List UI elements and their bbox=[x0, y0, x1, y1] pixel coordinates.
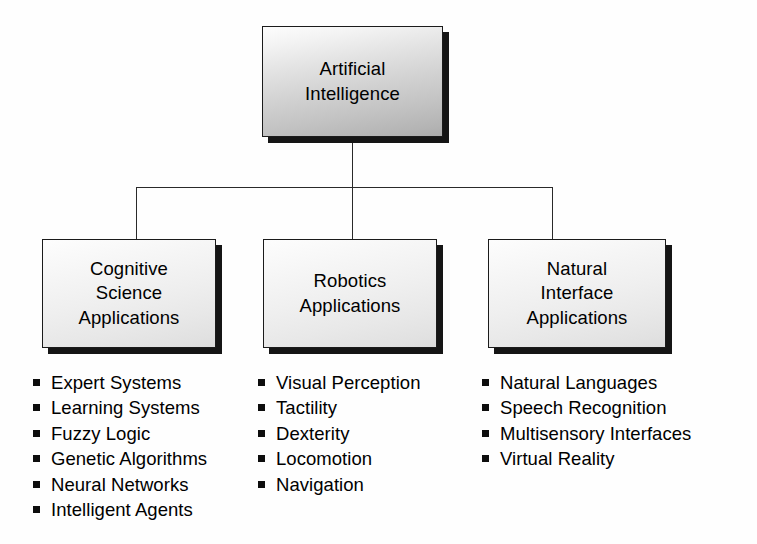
list-item-label: Locomotion bbox=[276, 448, 372, 470]
node-label: Natural Interface Applications bbox=[521, 257, 634, 329]
list-item[interactable]: Speech Recognition bbox=[482, 397, 691, 422]
list-item[interactable]: Tactility bbox=[258, 397, 421, 422]
square-bullet-icon bbox=[258, 455, 265, 462]
list-item-label: Learning Systems bbox=[51, 397, 200, 419]
node-label: Robotics Applications bbox=[294, 269, 407, 317]
list-natural-interface-applications: Natural LanguagesSpeech RecognitionMulti… bbox=[482, 372, 691, 474]
list-item-label: Navigation bbox=[276, 474, 364, 496]
square-bullet-icon bbox=[33, 430, 40, 437]
square-bullet-icon bbox=[33, 379, 40, 386]
square-bullet-icon bbox=[258, 379, 265, 386]
square-bullet-icon bbox=[33, 404, 40, 411]
node-label: Artificial Intelligence bbox=[299, 57, 406, 105]
square-bullet-icon bbox=[33, 455, 40, 462]
diagram-canvas: Artificial Intelligence Cognitive Scienc… bbox=[0, 0, 757, 544]
list-item-label: Natural Languages bbox=[500, 372, 657, 394]
list-robotics-applications: Visual PerceptionTactilityDexterityLocom… bbox=[258, 372, 421, 499]
list-item-label: Visual Perception bbox=[276, 372, 421, 394]
square-bullet-icon bbox=[33, 506, 40, 513]
square-bullet-icon bbox=[482, 379, 489, 386]
list-item[interactable]: Expert Systems bbox=[33, 372, 207, 397]
list-item[interactable]: Fuzzy Logic bbox=[33, 423, 207, 448]
node-artificial-intelligence[interactable]: Artificial Intelligence bbox=[262, 26, 443, 137]
square-bullet-icon bbox=[258, 430, 265, 437]
list-item-label: Expert Systems bbox=[51, 372, 181, 394]
square-bullet-icon bbox=[33, 481, 40, 488]
square-bullet-icon bbox=[482, 404, 489, 411]
list-item-label: Genetic Algorithms bbox=[51, 448, 207, 470]
list-item-label: Neural Networks bbox=[51, 474, 189, 496]
connector-drop-natural-interface bbox=[552, 187, 553, 239]
list-cognitive-science-applications: Expert SystemsLearning SystemsFuzzy Logi… bbox=[33, 372, 207, 524]
list-item[interactable]: Dexterity bbox=[258, 423, 421, 448]
list-item[interactable]: Visual Perception bbox=[258, 372, 421, 397]
list-item-label: Fuzzy Logic bbox=[51, 423, 150, 445]
list-item-label: Dexterity bbox=[276, 423, 349, 445]
list-item[interactable]: Natural Languages bbox=[482, 372, 691, 397]
node-robotics-applications[interactable]: Robotics Applications bbox=[263, 239, 437, 348]
square-bullet-icon bbox=[258, 481, 265, 488]
square-bullet-icon bbox=[258, 404, 265, 411]
node-label: Cognitive Science Applications bbox=[73, 257, 186, 329]
list-item[interactable]: Navigation bbox=[258, 474, 421, 499]
list-item[interactable]: Virtual Reality bbox=[482, 448, 691, 473]
list-item[interactable]: Intelligent Agents bbox=[33, 499, 207, 524]
list-item-label: Speech Recognition bbox=[500, 397, 667, 419]
connector-horizontal-bus bbox=[136, 187, 553, 188]
list-item[interactable]: Multisensory Interfaces bbox=[482, 423, 691, 448]
list-item-label: Intelligent Agents bbox=[51, 499, 193, 521]
list-item[interactable]: Neural Networks bbox=[33, 474, 207, 499]
list-item-label: Virtual Reality bbox=[500, 448, 615, 470]
square-bullet-icon bbox=[482, 455, 489, 462]
list-item-label: Tactility bbox=[276, 397, 337, 419]
list-item[interactable]: Locomotion bbox=[258, 448, 421, 473]
node-natural-interface-applications[interactable]: Natural Interface Applications bbox=[488, 239, 666, 348]
list-item[interactable]: Learning Systems bbox=[33, 397, 207, 422]
list-item-label: Multisensory Interfaces bbox=[500, 423, 691, 445]
square-bullet-icon bbox=[482, 430, 489, 437]
node-cognitive-science-applications[interactable]: Cognitive Science Applications bbox=[42, 239, 216, 348]
list-item[interactable]: Genetic Algorithms bbox=[33, 448, 207, 473]
connector-drop-cognitive-science bbox=[136, 187, 137, 239]
